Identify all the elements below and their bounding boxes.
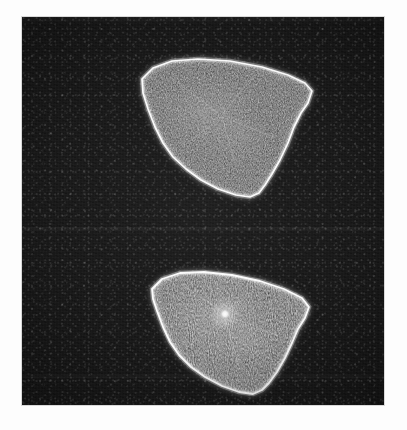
cell-lower-stress-fibers [182,285,277,369]
cell-lower-body [152,272,309,394]
overlay-noise-layer [22,17,384,405]
cell-lower-interior-glow-2 [204,314,284,370]
cell-upper-interior-glow-2 [197,107,277,167]
cell-lower-interior-glow [160,277,276,357]
cell-lower-cortex-core [152,272,309,394]
cell-lower-cytoskeleton-texture [152,272,309,394]
cell-upper-cytoskeleton-texture [142,59,312,197]
scan-banding-layer [22,17,384,405]
cell-upper-cortex-rim [142,59,312,197]
cell-lower [152,272,309,394]
cell-lower-punctum [218,307,232,321]
sensor-noise-layer [22,17,384,405]
cells-layer [22,17,384,405]
micrograph-panel [22,17,384,405]
cell-lower-cortex-rim [152,272,309,394]
cell-lower-punctum-halo [214,303,236,325]
figure-root [0,0,407,430]
cell-upper [142,59,312,197]
cell-upper-interior-glow [149,72,265,152]
cell-upper-body [142,59,312,197]
cell-upper-cortex-core [142,59,312,197]
film-grain-layer [22,17,384,405]
cell-upper-stress-fibers [170,75,274,167]
vignette-layer [22,17,384,405]
